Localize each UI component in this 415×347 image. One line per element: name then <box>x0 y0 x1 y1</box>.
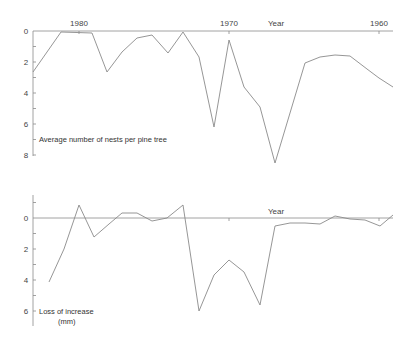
chart-canvas: 0 2 4 6 8 1980 1970 1960 Year Average nu… <box>0 0 415 347</box>
bottom-ylabel-line1: Loss of increase <box>39 307 94 316</box>
bottom-y-ticks <box>33 203 36 312</box>
top-ytick-0: 0 <box>24 27 29 36</box>
top-ytick-4: 4 <box>24 89 29 98</box>
top-ytick-8: 8 <box>24 151 29 160</box>
top-xtick-1980: 1980 <box>70 19 88 28</box>
bottom-ytick-0: 0 <box>24 214 29 223</box>
top-xtick-1960: 1960 <box>370 19 388 28</box>
bottom-ytick-2: 2 <box>24 245 29 254</box>
bottom-xlabel: Year <box>268 207 285 216</box>
top-ytick-6: 6 <box>24 120 29 129</box>
top-ytick-2: 2 <box>24 58 29 67</box>
bottom-ylabel-line2: (mm) <box>58 317 76 326</box>
top-ylabel: Average number of nests per pine tree <box>39 135 167 144</box>
bottom-ytick-6: 6 <box>24 307 29 316</box>
top-chart: 0 2 4 6 8 1980 1970 1960 Year Average nu… <box>24 19 393 163</box>
top-xlabel: Year <box>268 19 285 28</box>
loss-series-line <box>49 205 393 311</box>
top-xtick-1970: 1970 <box>220 19 238 28</box>
bottom-chart: 0 2 4 6 Year Loss of increase (mm) <box>24 195 393 326</box>
bottom-ytick-4: 4 <box>24 276 29 285</box>
top-y-ticks <box>33 47 36 156</box>
top-x-ticks <box>79 31 379 34</box>
